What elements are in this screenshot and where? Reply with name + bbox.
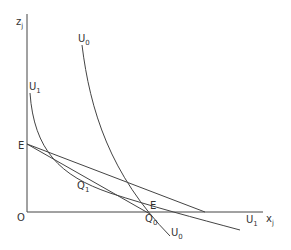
u0-top-label: U0 xyxy=(78,33,90,47)
indifference-curve-u1 xyxy=(30,93,240,230)
indifference-curve-diagram: zj xj O E U0 U1 Q1 E Q0 U0 U1 xyxy=(0,0,291,250)
origin-label: O xyxy=(17,212,25,223)
u0-bottom-label: U0 xyxy=(171,227,183,241)
budget-intercept-label: E xyxy=(18,140,24,151)
u1-top-label: U1 xyxy=(29,81,41,95)
budget-line-2 xyxy=(27,144,205,212)
budget-line xyxy=(27,144,150,214)
q1-label: Q1 xyxy=(77,180,89,194)
u1-bottom-label: U1 xyxy=(246,214,258,228)
q0-label: Q0 xyxy=(145,213,157,227)
x-axis-label: xj xyxy=(266,213,274,227)
y-axis-label: zj xyxy=(16,16,23,30)
e-point-label: E xyxy=(150,200,156,211)
